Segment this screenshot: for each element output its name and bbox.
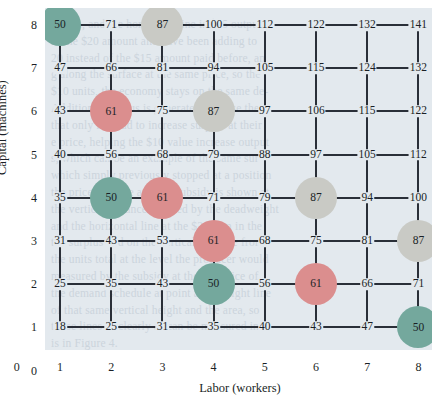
output-node: 105 (255, 62, 274, 74)
output-node: 43 (156, 278, 170, 290)
output-value: 112 (409, 149, 428, 161)
x-tick-label: 5 (262, 360, 268, 375)
x-tick-label: 2 (108, 360, 114, 375)
output-value: 94 (360, 192, 374, 204)
output-value: 115 (358, 106, 377, 118)
output-node: 106 (306, 106, 325, 118)
output-value: 124 (358, 62, 377, 74)
y-tick-label: 7 (31, 61, 37, 76)
output-node: 132 (358, 19, 377, 31)
output-value: 100 (409, 192, 428, 204)
y-tick-label: 3 (31, 234, 37, 249)
output-node: 40 (53, 149, 67, 161)
output-value: 112 (255, 19, 274, 31)
output-value: 141 (409, 19, 428, 31)
x-axis-label: Labor (workers) (199, 381, 281, 395)
output-node: 66 (104, 62, 118, 74)
output-value: 47 (53, 62, 67, 74)
output-node: 94 (207, 62, 221, 74)
output-value: 53 (156, 235, 170, 247)
output-value: 79 (207, 149, 221, 161)
output-value: 66 (104, 62, 118, 74)
output-value: 68 (156, 149, 170, 161)
output-value: 56 (258, 278, 272, 290)
highlighted-output-node: 61 (295, 263, 337, 305)
output-value: 18 (53, 322, 67, 334)
x-tick-label: 4 (211, 360, 217, 375)
output-node: 53 (156, 235, 170, 247)
output-node: 43 (104, 235, 118, 247)
output-value: 66 (360, 278, 374, 290)
output-value: 35 (104, 278, 118, 290)
output-node: 105 (358, 149, 377, 161)
output-node: 56 (104, 149, 118, 161)
output-value: 61 (104, 106, 118, 118)
output-value: 79 (258, 192, 272, 204)
output-node: 88 (258, 149, 272, 161)
output-value: 40 (258, 322, 272, 334)
output-node: 97 (309, 149, 323, 161)
output-node: 97 (258, 106, 272, 118)
output-node: 35 (104, 278, 118, 290)
output-node: 66 (360, 278, 374, 290)
output-value: 87 (156, 19, 170, 31)
highlighted-output-node: 87 (193, 90, 235, 132)
y-tick-label: 2 (31, 277, 37, 292)
output-node: 40 (258, 322, 272, 334)
y-tick-label: 5 (31, 147, 37, 162)
output-value: 43 (309, 322, 323, 334)
output-value: 97 (309, 149, 323, 161)
output-node: 132 (409, 62, 428, 74)
output-value: 106 (306, 106, 325, 118)
output-value: 43 (104, 235, 118, 247)
output-node: 43 (309, 322, 323, 334)
output-node: 122 (306, 19, 325, 31)
output-node: 71 (412, 278, 426, 290)
output-value: 71 (104, 19, 118, 31)
output-node: 115 (307, 62, 326, 74)
output-node: 71 (207, 192, 221, 204)
output-value: 61 (309, 278, 323, 290)
highlighted-output-node: 50 (45, 8, 81, 46)
highlighted-output-node: 87 (397, 220, 432, 262)
output-value: 47 (360, 322, 374, 334)
x-tick-label: 1 (57, 360, 63, 375)
output-value: 43 (53, 106, 67, 118)
output-value: 81 (156, 62, 170, 74)
output-value: 75 (156, 106, 170, 118)
y-tick-label: 0 (31, 363, 37, 378)
isoquant-figure: shown, and the horizontal line is $15 ou… (0, 0, 440, 400)
output-value: 50 (207, 278, 221, 290)
output-value: 56 (104, 149, 118, 161)
output-node: 35 (53, 192, 67, 204)
output-value: 105 (255, 62, 274, 74)
output-value: 68 (258, 235, 272, 247)
output-node: 81 (156, 62, 170, 74)
output-value: 94 (207, 62, 221, 74)
output-value: 100 (204, 19, 223, 31)
highlighted-output-node: 61 (193, 220, 235, 262)
output-node: 47 (360, 322, 374, 334)
output-value: 35 (207, 322, 221, 334)
highlighted-output-node: 50 (193, 263, 235, 305)
y-axis-label: Capital (machines) (0, 80, 10, 175)
highlighted-output-node: 87 (295, 177, 337, 219)
output-value: 132 (409, 62, 428, 74)
output-value: 25 (53, 278, 67, 290)
output-value: 115 (307, 62, 326, 74)
output-node: 75 (156, 106, 170, 118)
output-value: 50 (104, 192, 118, 204)
output-value: 50 (53, 19, 67, 31)
output-value: 132 (358, 19, 377, 31)
output-node: 94 (360, 192, 374, 204)
y-tick-label: 1 (31, 320, 37, 335)
output-value: 88 (258, 149, 272, 161)
output-value: 35 (53, 192, 67, 204)
output-value: 61 (156, 192, 170, 204)
output-node: 79 (258, 192, 272, 204)
output-node: 68 (258, 235, 272, 247)
output-value: 122 (306, 19, 325, 31)
output-value: 71 (207, 192, 221, 204)
output-node: 68 (156, 149, 170, 161)
output-value: 87 (207, 106, 221, 118)
